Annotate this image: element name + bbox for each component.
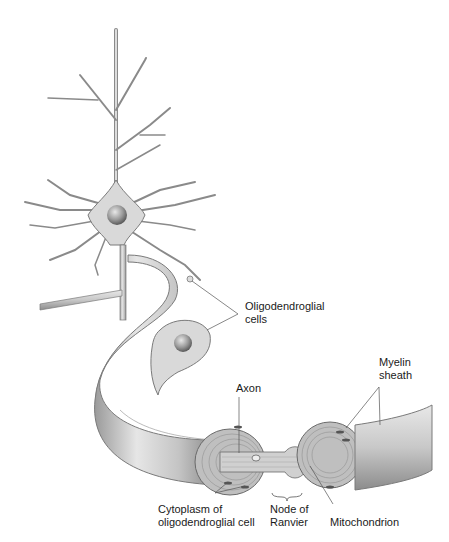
oligodendroglial-cell (151, 320, 210, 395)
label-axon: Axon (236, 382, 261, 395)
neuron-diagram (0, 0, 449, 542)
label-myelin-sheath: Myelin sheath (379, 356, 412, 382)
label-node-of-ranvier: Node of Ranvier (270, 503, 309, 529)
nucleus (107, 205, 127, 225)
node-brace (272, 493, 302, 501)
label-oligodendroglial-cells: Oligodendroglial cells (245, 300, 325, 326)
label-mitochondrion: Mitochondrion (330, 516, 399, 529)
label-cytoplasm: Cytoplasm of oligodendroglial cell (158, 503, 255, 529)
